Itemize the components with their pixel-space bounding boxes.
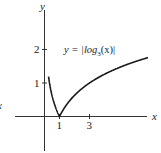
x-axis-label: x <box>151 110 157 122</box>
equation-annotation: y = |log3(x)| <box>63 44 115 58</box>
x-tick-label-3: 3 <box>87 119 93 131</box>
equation-rhs: (x)| <box>101 44 115 56</box>
log-abs-plot: y x x 1 3 1 2 y = |log3(x)| <box>0 0 161 153</box>
log-curve <box>49 58 148 117</box>
left-clipped-x-label: x <box>0 99 2 111</box>
x-tick-label-1: 1 <box>57 119 63 131</box>
y-tick-label-2: 2 <box>34 43 40 55</box>
y-axis-label: y <box>39 0 45 12</box>
y-tick-label-1: 1 <box>34 77 40 89</box>
equation-lhs: y = |log <box>63 44 97 55</box>
